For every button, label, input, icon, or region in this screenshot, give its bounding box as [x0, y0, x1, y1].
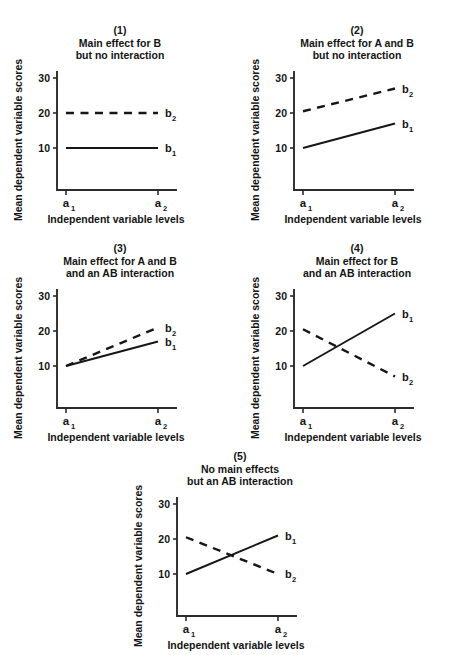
series-label-subscript-b1: 1 — [409, 315, 413, 324]
panel-title-line1: Main effect for B — [79, 37, 162, 49]
chart-panel-1: (1)Main effect for Bbut no interaction30… — [8, 22, 208, 232]
series-label-b2: b — [285, 568, 292, 580]
chart-panel-2: (2)Main effect for A and Bbut no interac… — [245, 22, 445, 232]
x-tick-subscript: 1 — [71, 422, 75, 431]
panel-title-line2: but no interaction — [76, 49, 165, 61]
y-axis-label: Mean dependent variable scores — [249, 277, 261, 439]
y-tick-label: 10 — [275, 360, 287, 372]
chart-panel-3: (3)Main effect for A and Band an AB inte… — [8, 240, 208, 450]
series-line-b1 — [303, 124, 395, 149]
y-tick-label: 30 — [275, 72, 287, 84]
y-axis-label: Mean dependent variable scores — [12, 59, 24, 221]
chart-axes — [57, 72, 176, 190]
series-label-b1: b — [165, 336, 172, 348]
series-line-b1 — [66, 342, 158, 367]
chart-axes — [294, 290, 413, 408]
y-tick-label: 30 — [38, 72, 50, 84]
series-label-subscript-b2: 2 — [409, 90, 413, 99]
series-label-b1: b — [402, 308, 409, 320]
y-tick-label: 20 — [158, 533, 170, 545]
x-tick-subscript: 1 — [308, 204, 312, 213]
y-tick-label: 10 — [158, 568, 170, 580]
chart-panel-5: (5)No main effectsbut an AB interaction3… — [128, 448, 328, 655]
x-tick-label: a — [275, 623, 282, 635]
x-tick-subscript: 2 — [400, 204, 404, 213]
y-tick-label: 10 — [275, 142, 287, 154]
panel-number: (2) — [351, 24, 364, 36]
y-tick-label: 30 — [275, 290, 287, 302]
x-tick-subscript: 1 — [71, 204, 75, 213]
series-label-subscript-b1: 1 — [292, 537, 296, 546]
x-tick-label: a — [300, 197, 307, 209]
x-tick-subscript: 1 — [191, 630, 195, 639]
panel-title-line1: Main effect for A and B — [63, 255, 177, 267]
series-label-subscript-b1: 1 — [172, 149, 176, 158]
x-tick-subscript: 2 — [283, 630, 287, 639]
y-tick-label: 30 — [158, 498, 170, 510]
x-tick-label: a — [392, 197, 399, 209]
series-line-b2 — [66, 328, 158, 367]
panel-title-line1: Main effect for B — [316, 255, 399, 267]
series-line-b2 — [303, 329, 395, 376]
y-tick-label: 20 — [38, 107, 50, 119]
x-tick-label: a — [155, 415, 162, 427]
x-tick-label: a — [300, 415, 307, 427]
x-tick-label: a — [63, 415, 70, 427]
series-label-b1: b — [285, 530, 292, 542]
chart-panel-4: (4)Main effect for Band an AB interactio… — [245, 240, 445, 450]
chart-axes — [294, 72, 413, 190]
chart-axes — [57, 290, 176, 408]
series-label-b2: b — [165, 107, 172, 119]
x-tick-subscript: 2 — [163, 204, 167, 213]
series-label-b2: b — [402, 83, 409, 95]
series-label-subscript-b1: 1 — [409, 125, 413, 134]
chart-svg-4: (4)Main effect for Band an AB interactio… — [245, 240, 445, 450]
chart-svg-1: (1)Main effect for Bbut no interaction30… — [8, 22, 208, 232]
panel-title-line1: Main effect for A and B — [300, 37, 414, 49]
panel-number: (5) — [234, 450, 247, 462]
x-axis-label: Independent variable levels — [284, 213, 421, 225]
panel-title-line2: and an AB interaction — [303, 267, 411, 279]
x-axis-label: Independent variable levels — [167, 639, 304, 651]
panel-title-line1: No main effects — [201, 463, 279, 475]
x-tick-label: a — [155, 197, 162, 209]
chart-svg-3: (3)Main effect for A and Band an AB inte… — [8, 240, 208, 450]
y-axis-label: Mean dependent variable scores — [132, 485, 144, 647]
y-tick-label: 20 — [275, 107, 287, 119]
y-axis-label: Mean dependent variable scores — [249, 59, 261, 221]
x-axis-label: Independent variable levels — [47, 431, 184, 443]
x-tick-label: a — [392, 415, 399, 427]
series-label-subscript-b2: 2 — [409, 378, 413, 387]
panel-number: (4) — [351, 242, 364, 254]
panel-number: (3) — [114, 242, 127, 254]
x-tick-subscript: 2 — [400, 422, 404, 431]
series-label-subscript-b2: 2 — [292, 575, 296, 584]
x-tick-label: a — [63, 197, 70, 209]
series-label-b1: b — [165, 142, 172, 154]
series-label-subscript-b2: 2 — [172, 329, 176, 338]
y-tick-label: 30 — [38, 290, 50, 302]
series-label-subscript-b2: 2 — [172, 114, 176, 123]
panel-title-line2: and an AB interaction — [66, 267, 174, 279]
x-axis-label: Independent variable levels — [47, 213, 184, 225]
panel-title-line2: but an AB interaction — [187, 475, 293, 487]
series-line-b2 — [303, 89, 395, 112]
series-label-b1: b — [402, 118, 409, 130]
y-tick-label: 10 — [38, 360, 50, 372]
series-label-subscript-b1: 1 — [172, 343, 176, 352]
series-label-b2: b — [402, 371, 409, 383]
x-tick-label: a — [183, 623, 190, 635]
chart-svg-5: (5)No main effectsbut an AB interaction3… — [128, 448, 328, 655]
y-axis-label: Mean dependent variable scores — [12, 277, 24, 439]
y-tick-label: 10 — [38, 142, 50, 154]
chart-svg-2: (2)Main effect for A and Bbut no interac… — [245, 22, 445, 232]
y-tick-label: 20 — [38, 325, 50, 337]
panel-number: (1) — [114, 24, 127, 36]
y-tick-label: 20 — [275, 325, 287, 337]
x-axis-label: Independent variable levels — [284, 431, 421, 443]
chart-axes — [177, 498, 296, 616]
x-tick-subscript: 1 — [308, 422, 312, 431]
series-line-b1 — [303, 314, 395, 367]
panel-title-line2: but no interaction — [313, 49, 402, 61]
series-label-b2: b — [165, 322, 172, 334]
